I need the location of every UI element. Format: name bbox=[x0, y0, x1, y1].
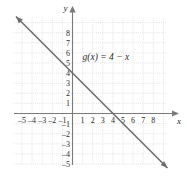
x-tick-label: 8 bbox=[151, 116, 155, 125]
x-tick-label: 4 bbox=[111, 116, 115, 125]
x-tick-label: –4 bbox=[27, 116, 36, 125]
figure-background bbox=[0, 0, 187, 177]
function-equation-label: g(x) = 4 − x bbox=[83, 52, 130, 63]
coordinate-plane-figure: –5–4–3–2–112345678 87654321–1–2–3–4–5 x … bbox=[0, 0, 187, 177]
y-tick-label: 1 bbox=[66, 99, 70, 108]
x-axis-label: x bbox=[176, 116, 181, 126]
y-tick-label: 2 bbox=[66, 89, 70, 98]
y-tick-label: –3 bbox=[61, 140, 70, 149]
y-tick-label: –5 bbox=[61, 160, 70, 169]
x-tick-label: 2 bbox=[91, 116, 95, 125]
x-tick-label: –5 bbox=[17, 116, 26, 125]
x-tick-label: 7 bbox=[141, 116, 145, 125]
y-tick-label: –4 bbox=[61, 150, 70, 159]
y-tick-label: 6 bbox=[66, 49, 70, 58]
y-tick-label: –2 bbox=[61, 130, 70, 139]
x-tick-label: 3 bbox=[101, 116, 105, 125]
x-tick-label: 1 bbox=[81, 116, 85, 125]
x-tick-label: –3 bbox=[37, 116, 46, 125]
y-tick-label: 8 bbox=[66, 29, 70, 38]
y-tick-label: 3 bbox=[66, 79, 70, 88]
x-tick-label: 6 bbox=[131, 116, 135, 125]
y-axis-label: y bbox=[63, 3, 68, 13]
x-tick-label: –2 bbox=[47, 116, 56, 125]
graph-canvas: –5–4–3–2–112345678 87654321–1–2–3–4–5 x … bbox=[0, 0, 187, 177]
y-tick-label: –1 bbox=[61, 120, 70, 129]
y-tick-label: 7 bbox=[66, 39, 70, 48]
